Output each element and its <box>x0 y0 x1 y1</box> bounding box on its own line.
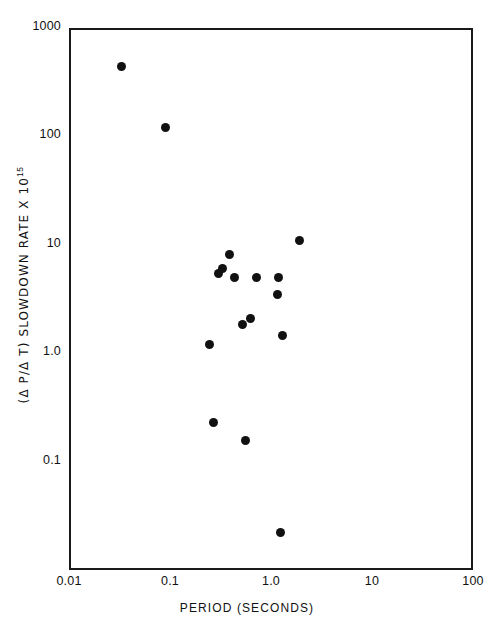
x-axis-tick-label: 100 <box>462 574 483 588</box>
y-axis-tick-label: 10 <box>47 236 61 250</box>
data-point <box>209 418 218 427</box>
x-axis-tick-label: 1.0 <box>262 574 280 588</box>
y-axis-title-container: (Δ P/Δ T) SLOWDOWN RATE X 1015 <box>0 0 46 570</box>
data-point <box>241 436 250 445</box>
data-point <box>214 269 223 278</box>
x-axis-title: PERIOD (SECONDS) <box>0 601 494 615</box>
y-axis-tick-label: 1000 <box>32 19 61 33</box>
data-point <box>246 314 255 323</box>
scatter-chart-figure: (Δ P/Δ T) SLOWDOWN RATE X 1015 100010010… <box>0 0 494 633</box>
data-point <box>274 273 283 282</box>
data-point <box>205 340 214 349</box>
plot-area <box>69 28 473 570</box>
data-point <box>238 320 247 329</box>
y-axis-title-exponent: 15 <box>15 167 25 177</box>
data-point <box>278 331 287 340</box>
y-axis-title-text: (Δ P/Δ T) SLOWDOWN RATE X 10 <box>17 177 31 403</box>
data-point <box>230 273 239 282</box>
data-point <box>161 123 170 132</box>
x-axis-tick-label: 0.1 <box>161 574 179 588</box>
data-point <box>295 236 304 245</box>
y-axis-tick-label: 100 <box>40 127 61 141</box>
data-point <box>225 250 234 259</box>
x-axis-tick-label: 0.01 <box>56 574 81 588</box>
x-axis-tick-label: 10 <box>365 574 379 588</box>
y-axis-tick-label: 0.1 <box>43 453 61 467</box>
data-point <box>252 273 261 282</box>
data-point <box>117 62 126 71</box>
data-point <box>276 528 285 537</box>
y-axis-tick-label: 1.0 <box>43 344 61 358</box>
y-axis-title: (Δ P/Δ T) SLOWDOWN RATE X 1015 <box>15 167 31 404</box>
data-point <box>273 290 282 299</box>
